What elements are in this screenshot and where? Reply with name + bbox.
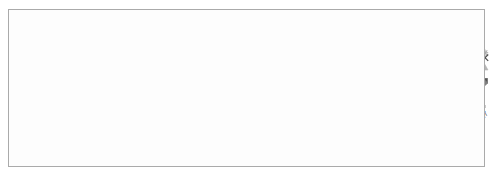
chart-container: 0204060801991199219931994199519961997199… (0, 0, 497, 178)
chart-frame (8, 9, 485, 167)
